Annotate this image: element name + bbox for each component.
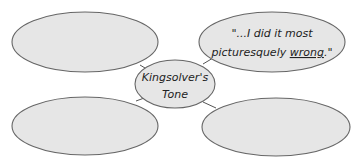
quote-line2-pre: picturesquely: [211, 46, 290, 59]
oval-bottom-right: [202, 98, 350, 156]
quote-underlined-word: wrong: [290, 46, 324, 59]
quote-line2: picturesquely wrong.": [211, 46, 333, 59]
connector-top-left: [140, 65, 145, 68]
center-label-line1: Kingsolver's: [142, 71, 209, 84]
connector-bottom-right: [203, 102, 216, 108]
oval-top-left: [12, 12, 158, 72]
quote-line1: "...I did it most: [231, 27, 313, 40]
quote-line2-post: .": [324, 46, 333, 59]
concept-web-diagram: Kingsolver's Tone "...I did it most pict…: [0, 0, 358, 163]
oval-bottom-left: [12, 97, 158, 155]
center-label-line2: Tone: [162, 88, 188, 101]
oval-top-right: [199, 12, 345, 72]
